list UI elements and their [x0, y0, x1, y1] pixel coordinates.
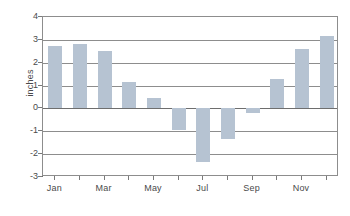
y-tick-label: -3 [20, 172, 38, 181]
y-tick-label: 3 [20, 35, 38, 44]
x-axis-tick [79, 176, 80, 180]
x-axis-tick [227, 176, 228, 180]
bar-chart: inches 43210-1-2-3 JanMarMayJulSepNov [0, 0, 350, 216]
bar [122, 82, 136, 108]
x-axis-tick [104, 176, 105, 180]
bar [196, 108, 210, 162]
bar [147, 98, 161, 108]
x-tick-label: Mar [84, 183, 124, 193]
x-axis-tick [178, 176, 179, 180]
plot-area [42, 16, 338, 176]
x-axis-tick [202, 176, 203, 180]
bar [221, 108, 235, 139]
y-axis-tick [38, 107, 42, 108]
y-axis-tick [38, 153, 42, 154]
bar [73, 44, 87, 108]
y-tick-label: -1 [20, 126, 38, 135]
bar [48, 46, 62, 109]
x-tick-label: Nov [281, 183, 321, 193]
bar [295, 49, 309, 108]
x-axis-tick [252, 176, 253, 180]
x-tick-label: Jan [34, 183, 74, 193]
x-axis-ticks-and-labels: JanMarMayJulSepNov [42, 176, 338, 216]
y-axis-tick [38, 176, 42, 177]
x-axis-tick [326, 176, 327, 180]
bar [172, 108, 186, 130]
x-tick-label: May [133, 183, 173, 193]
y-tick-label: 0 [20, 103, 38, 112]
bar [246, 108, 260, 113]
x-axis-tick [301, 176, 302, 180]
x-axis-tick [153, 176, 154, 180]
bar [270, 79, 284, 109]
y-axis-tick [38, 130, 42, 131]
y-tick-label: 4 [20, 12, 38, 21]
x-axis-tick [128, 176, 129, 180]
bar [98, 51, 112, 108]
x-axis-tick [54, 176, 55, 180]
y-axis-tick [38, 62, 42, 63]
y-axis-tick [38, 39, 42, 40]
y-tick-label: 1 [20, 81, 38, 90]
x-tick-label: Jul [182, 183, 222, 193]
x-tick-label: Sep [232, 183, 272, 193]
bar [320, 36, 334, 108]
y-tick-label: -2 [20, 149, 38, 158]
y-axis-tick [38, 16, 42, 17]
bar-series [43, 17, 337, 175]
y-axis-tick [38, 85, 42, 86]
y-tick-label: 2 [20, 58, 38, 67]
x-axis-tick [276, 176, 277, 180]
